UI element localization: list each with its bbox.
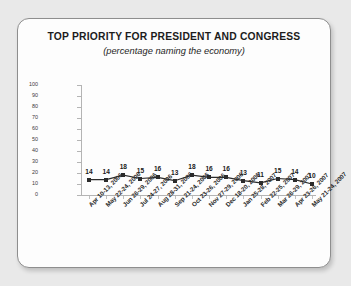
data-point-label: 18 [120,163,127,170]
data-point-label: 14 [102,168,109,175]
data-point-label: 15 [274,167,281,174]
series-line [18,19,332,269]
data-point-marker [87,178,91,182]
data-point-label: 16 [223,165,230,172]
plot-area: 0102030405060708090100 14141815161318161… [18,19,332,269]
data-point-label: 16 [154,165,161,172]
data-point-label: 13 [171,169,178,176]
data-point-label: 18 [188,163,195,170]
data-point-label: 14 [85,168,92,175]
chart-card: TOP PRIORITY FOR PRESIDENT AND CONGRESS … [17,18,331,268]
screenshot-root: TOP PRIORITY FOR PRESIDENT AND CONGRESS … [0,0,351,286]
